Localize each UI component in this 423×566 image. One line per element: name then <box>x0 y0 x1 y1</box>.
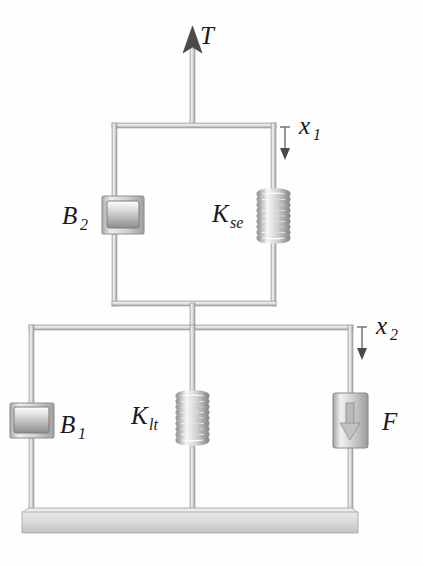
displacement-x2-label: x <box>375 312 387 339</box>
upper-frame-top-edge <box>112 123 276 128</box>
upper-frame-left-edge-bottom <box>112 234 117 306</box>
spring-kse: K se <box>211 190 289 241</box>
actuator-f-label: F <box>381 408 398 435</box>
lower-leg-right-top <box>348 325 353 395</box>
ground-base <box>22 508 358 533</box>
ground-base-front-face <box>22 512 358 533</box>
spring-klt-subscript: lt <box>149 416 158 433</box>
spring-klt-label: K <box>130 402 149 429</box>
damper-b2-label: B <box>62 202 77 229</box>
upper-frame-left-edge-top <box>112 123 117 199</box>
damper-b1-subscript: 1 <box>78 425 86 442</box>
displacement-x1-label: x <box>298 112 310 139</box>
damper-b1-label: B <box>60 411 75 438</box>
spring-kse-label: K <box>211 200 230 227</box>
spring-klt-coils <box>178 392 208 443</box>
spring-kse-subscript: se <box>230 214 243 231</box>
displacement-x1-arrowhead-icon <box>280 148 290 160</box>
diagram-canvas: T B 2 <box>0 0 423 566</box>
damper-b2-piston <box>107 201 139 228</box>
input-torque-group: T <box>183 22 216 126</box>
lower-leg-left-bottom <box>29 437 34 515</box>
lower-leg-left-top <box>29 325 34 405</box>
damper-b2: B 2 <box>62 196 144 234</box>
spring-klt: K lt <box>130 392 208 443</box>
displacement-x1: x 1 <box>280 112 321 160</box>
displacement-x2: x 2 <box>357 312 398 360</box>
displacement-x2-arrowhead-icon <box>357 348 367 360</box>
torque-label: T <box>200 22 216 49</box>
damper-b1-piston <box>14 407 49 433</box>
displacement-x1-subscript: 1 <box>313 126 321 143</box>
lower-leg-right-bottom <box>348 445 353 515</box>
displacement-x2-subscript: 2 <box>390 326 398 343</box>
damper-b2-subscript: 2 <box>80 216 88 233</box>
upper-frame-right-edge-top <box>271 123 276 189</box>
spring-kse-coils <box>259 190 289 241</box>
upper-frame-right-edge-bottom <box>271 242 276 306</box>
lower-leg-center-bottom <box>190 446 195 515</box>
mechanical-system-diagram: T B 2 <box>0 0 423 566</box>
actuator-f: F <box>333 393 398 448</box>
damper-b1: B 1 <box>10 403 86 442</box>
lower-leg-center-top <box>190 325 195 391</box>
input-rod <box>190 48 195 126</box>
